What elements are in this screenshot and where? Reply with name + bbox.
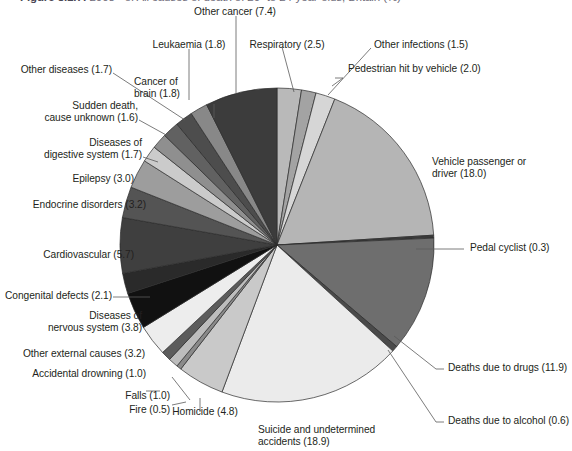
label-respiratory: Respiratory (2.5) xyxy=(232,39,342,51)
leader-fire xyxy=(172,402,186,405)
label-pedestrian: Pedestrian hit by vehicle (2.0) xyxy=(348,63,568,75)
leader-falls xyxy=(172,377,190,400)
label-vehicle-passenger: Vehicle passenger or driver (18.0) xyxy=(432,156,568,181)
label-accidental-drowning: Accidental drowning (1.0) xyxy=(0,368,146,380)
label-suicide: Suicide and undetermined accidents (18.9… xyxy=(258,424,418,449)
label-other-diseases: Other diseases (1.7) xyxy=(4,64,112,76)
leader-alcohol xyxy=(388,350,436,422)
label-fire: Fire (0.5) xyxy=(0,404,170,416)
label-falls: Falls (1.0) xyxy=(0,390,170,402)
label-epilepsy: Epilepsy (3.0) xyxy=(4,173,134,185)
pie-chart: Other cancer (7.4) Leukaemia (1.8) Respi… xyxy=(0,0,572,451)
label-other-cancer: Other cancer (7.4) xyxy=(155,6,315,18)
label-congenital-defects: Congenital defects (2.1) xyxy=(0,290,112,302)
label-other-infections: Other infections (1.5) xyxy=(374,39,564,51)
label-deaths-due-to-drugs: Deaths due to drugs (11.9) xyxy=(448,362,572,374)
leader-respiratory xyxy=(282,47,294,92)
label-nervous-system: Diseases of nervous system (3.8) xyxy=(0,310,142,335)
label-cardiovascular: Cardiovascular (5.7) xyxy=(0,249,134,261)
label-digestive-system: Diseases of digestive system (1.7) xyxy=(4,137,142,162)
label-deaths-due-to-alcohol: Deaths due to alcohol (0.6) xyxy=(448,415,572,427)
leader-sudden-death xyxy=(139,120,168,136)
label-sudden-death: Sudden death, cause unknown (1.6) xyxy=(4,100,138,125)
label-pedal-cyclist: Pedal cyclist (0.3) xyxy=(470,242,572,254)
label-homicide: Homicide (4.8) xyxy=(162,406,248,418)
leader-drugs xyxy=(394,336,436,369)
label-cancer-of-brain: Cancer of brain (1.8) xyxy=(134,76,224,101)
label-endocrine-disorders: Endocrine disorders (3.2) xyxy=(0,199,146,211)
label-other-external-causes: Other external causes (3.2) xyxy=(0,348,145,360)
